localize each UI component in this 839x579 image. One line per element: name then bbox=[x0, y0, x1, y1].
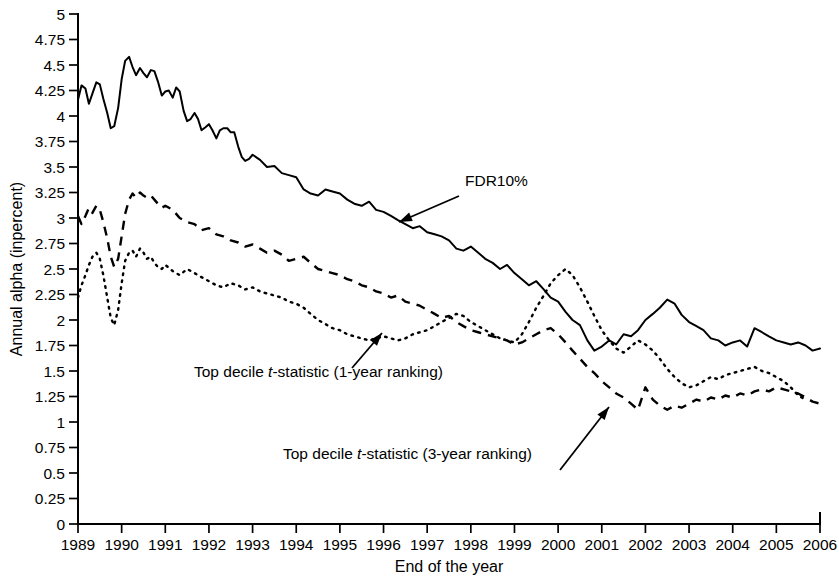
x-tick-label: 1995 bbox=[323, 536, 357, 553]
annotation-arrow-head bbox=[399, 213, 413, 222]
x-tick-label: 1992 bbox=[192, 536, 226, 553]
x-axis-title: End of the year bbox=[395, 558, 504, 575]
y-tick-label: 3.75 bbox=[35, 133, 65, 150]
y-tick-label: 2 bbox=[56, 312, 65, 329]
chart-figure: 00.250.50.7511.251.51.7522.252.52.7533.2… bbox=[0, 0, 839, 579]
y-axis-ticks: 00.250.50.7511.251.51.7522.252.52.7533.2… bbox=[35, 6, 78, 533]
x-tick-label: 1998 bbox=[454, 536, 488, 553]
annotation-text-pre: Top decile bbox=[194, 363, 268, 380]
data-series-group bbox=[78, 57, 820, 410]
y-tick-label: 4.25 bbox=[35, 82, 65, 99]
annotation-text-post: -statistic (3-year ranking) bbox=[361, 445, 532, 462]
x-tick-label: 2000 bbox=[541, 536, 576, 553]
y-tick-label: 1.25 bbox=[35, 388, 65, 405]
annotation-arrow-head bbox=[597, 407, 609, 420]
annotation-label: FDR10% bbox=[465, 172, 528, 189]
annotations-group: FDR10%Top decile t-statistic (1-year ran… bbox=[194, 172, 609, 470]
x-tick-label: 2003 bbox=[672, 536, 706, 553]
annotation-text-post: -statistic (1-year ranking) bbox=[272, 363, 443, 380]
x-tick-label: 1994 bbox=[279, 536, 314, 553]
x-tick-label: 2006 bbox=[803, 536, 837, 553]
y-tick-label: 2.75 bbox=[35, 235, 65, 252]
alpha-time-series-chart: 00.250.50.7511.251.51.7522.252.52.7533.2… bbox=[0, 0, 839, 579]
y-tick-label: 1.75 bbox=[35, 337, 65, 354]
y-tick-label: 1.5 bbox=[43, 363, 65, 380]
y-tick-label: 3.25 bbox=[35, 184, 65, 201]
x-tick-label: 2005 bbox=[759, 536, 793, 553]
x-tick-label: 1997 bbox=[410, 536, 444, 553]
y-tick-label: 5 bbox=[56, 6, 65, 23]
y-tick-label: 0 bbox=[56, 516, 65, 533]
y-tick-label: 0.75 bbox=[35, 439, 65, 456]
y-tick-label: 2.25 bbox=[35, 286, 65, 303]
y-axis-title: Annual alpha (inpercent) bbox=[8, 182, 25, 356]
y-tick-label: 4.5 bbox=[43, 57, 65, 74]
annotation-label: Top decile t-statistic (3-year ranking) bbox=[283, 445, 532, 462]
y-tick-label: 3.5 bbox=[43, 159, 65, 176]
y-tick-label: 0.25 bbox=[35, 490, 65, 507]
x-tick-label: 1996 bbox=[366, 536, 400, 553]
x-tick-label: 1989 bbox=[61, 536, 95, 553]
x-tick-label: 1990 bbox=[104, 536, 139, 553]
y-tick-label: 4 bbox=[56, 108, 65, 125]
y-tick-label: 3 bbox=[56, 210, 65, 227]
annotation-label: Top decile t-statistic (1-year ranking) bbox=[194, 363, 443, 380]
y-tick-label: 4.75 bbox=[35, 31, 65, 48]
x-tick-label: 2004 bbox=[715, 536, 750, 553]
annotation-text-pre: Top decile bbox=[283, 445, 357, 462]
y-tick-label: 1 bbox=[56, 414, 65, 431]
x-tick-label: 2002 bbox=[628, 536, 662, 553]
x-tick-label: 1999 bbox=[497, 536, 531, 553]
x-axis-ticks: 1989199019911992199319941995199619971998… bbox=[61, 524, 837, 553]
x-tick-label: 2001 bbox=[585, 536, 619, 553]
x-tick-label: 1993 bbox=[235, 536, 269, 553]
series-line bbox=[78, 57, 820, 351]
x-tick-label: 1991 bbox=[148, 536, 182, 553]
y-tick-label: 2.5 bbox=[43, 261, 65, 278]
y-tick-label: 0.5 bbox=[43, 465, 65, 482]
